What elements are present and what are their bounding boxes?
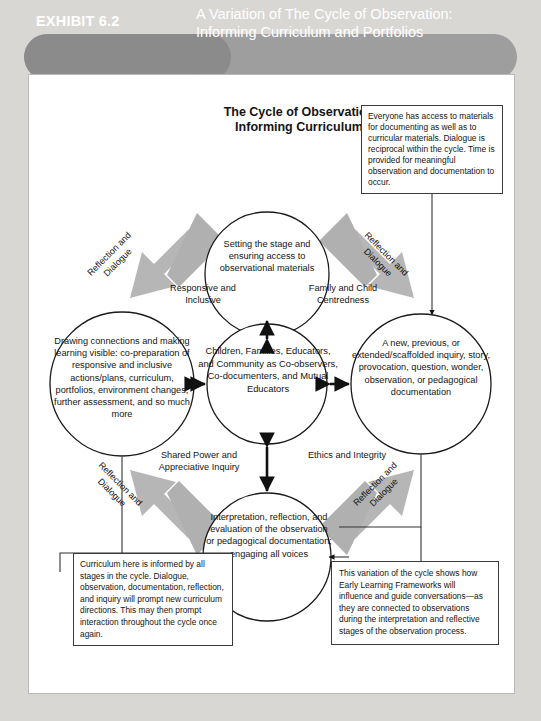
note-top-right: Everyone has access to materials for doc… xyxy=(361,105,503,194)
circle-right-text: A new, previous, or extended/scaffolded … xyxy=(351,337,491,398)
quadrant-label-top-left: Responsive and Inclusive xyxy=(157,283,249,306)
exhibit-title-line-2: Informing Curriculum and Portfolios xyxy=(196,23,491,41)
page-root: EXHIBIT 6.2 A Variation of The Cycle of … xyxy=(0,0,541,721)
circle-left-text: Drawing connections and making learning … xyxy=(51,335,193,420)
note-bottom-right: This variation of the cycle shows how Ea… xyxy=(331,561,499,645)
circle-center-text: Children, Families, Educators, and Commu… xyxy=(197,345,339,395)
note-bottom-left: Curriculum here is informed by all stage… xyxy=(73,553,233,646)
note-top-right-text: Everyone has access to materials for doc… xyxy=(368,111,496,188)
exhibit-number-label: EXHIBIT 6.2 xyxy=(36,13,120,29)
note-bottom-right-text: This variation of the cycle shows how Ea… xyxy=(339,568,491,638)
exhibit-title: A Variation of The Cycle of Observation:… xyxy=(196,5,491,41)
circle-top-text: Setting the stage and ensuring access to… xyxy=(207,238,327,275)
exhibit-title-line-1: A Variation of The Cycle of Observation: xyxy=(196,5,491,23)
exhibit-card: The Cycle of Observation Informing Curri… xyxy=(28,74,515,694)
quadrant-label-top-right: Family and Child Centredness xyxy=(297,283,389,306)
quadrant-label-bottom-left: Shared Power and Appreciative Inquiry xyxy=(151,450,247,473)
quadrant-label-bottom-right: Ethics and Integrity xyxy=(301,450,393,462)
note-bottom-left-text: Curriculum here is informed by all stage… xyxy=(80,559,226,640)
